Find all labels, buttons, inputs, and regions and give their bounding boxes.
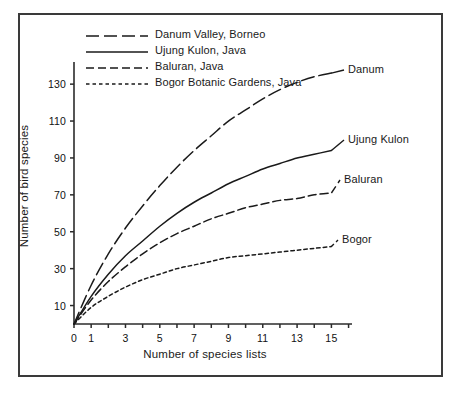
legend-label: Baluran, Java xyxy=(155,60,224,72)
legend-swatch-medium-dash-icon xyxy=(86,60,148,72)
data-series-lines xyxy=(74,73,331,324)
y-tick-label: 70 xyxy=(32,189,66,201)
x-tick-label: 13 xyxy=(291,332,303,344)
y-tick-label: 50 xyxy=(32,226,66,238)
series-end-label-baluran: Baluran xyxy=(344,173,383,185)
legend-label: Ujung Kulon, Java xyxy=(155,44,246,56)
axis-ticks xyxy=(70,84,349,328)
x-axis-title: Number of species lists xyxy=(143,348,266,360)
y-tick-label: 10 xyxy=(32,300,66,312)
y-axis-title: Number of bird species xyxy=(18,125,30,248)
y-tick-label: 90 xyxy=(32,152,66,164)
legend-item-danum-valley: Danum Valley, Borneo xyxy=(86,26,336,42)
series-end-label-ujung-kulon: Ujung Kulon xyxy=(348,133,409,145)
x-tick-label: 1 xyxy=(88,332,94,344)
legend-item-ujung-kulon: Ujung Kulon, Java xyxy=(86,42,336,58)
x-tick-label: 15 xyxy=(325,332,337,344)
x-tick-label: 5 xyxy=(157,332,163,344)
axis-lines xyxy=(74,62,352,324)
y-tick-label: 130 xyxy=(32,78,66,90)
legend-item-bogor: Bogor Botanic Gardens, Java xyxy=(86,74,336,90)
x-tick-label: 0 xyxy=(71,332,77,344)
legend-swatch-long-dash-icon xyxy=(86,28,148,40)
y-tick-label: 110 xyxy=(32,115,66,127)
series-leader-lines xyxy=(331,70,344,247)
legend-swatch-short-dash-icon xyxy=(86,76,148,88)
legend-label: Bogor Botanic Gardens, Java xyxy=(155,76,301,88)
x-tick-label: 11 xyxy=(257,332,268,344)
series-end-label-bogor: Bogor xyxy=(342,233,372,245)
figure-container: Number of bird species Number of species… xyxy=(0,0,459,396)
x-tick-label: 3 xyxy=(122,332,128,344)
y-tick-label: 30 xyxy=(32,263,66,275)
chart-legend: Danum Valley, Borneo Ujung Kulon, Java B… xyxy=(86,26,336,90)
series-end-label-danum: Danum xyxy=(348,63,384,75)
x-tick-label: 7 xyxy=(191,332,197,344)
legend-swatch-solid-icon xyxy=(86,44,148,56)
legend-label: Danum Valley, Borneo xyxy=(155,28,265,40)
x-tick-label: 9 xyxy=(225,332,231,344)
legend-item-baluran: Baluran, Java xyxy=(86,58,336,74)
